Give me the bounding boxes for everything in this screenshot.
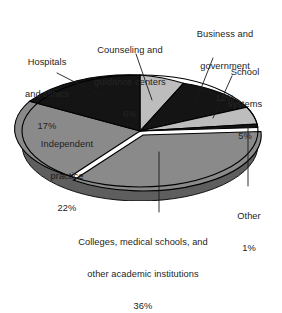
label-colleges-line1: Colleges, medical schools, and (52, 237, 234, 248)
label-business-line1: Business and (178, 29, 272, 40)
label-independent-practice: Independent practice 22% (24, 118, 110, 235)
label-independent-practice-line2: practice (24, 171, 110, 182)
label-colleges-percent: 36% (52, 301, 234, 312)
label-counseling-line1: Counseling and (76, 45, 184, 56)
label-independent-practice-percent: 22% (24, 203, 110, 214)
label-school-systems-line2: systems (212, 99, 278, 110)
label-counseling-line2: guidance centers (76, 77, 184, 88)
label-independent-practice-line1: Independent (24, 139, 110, 150)
label-school-systems-percent: 5% (212, 131, 278, 142)
label-school-systems: School systems 5% (212, 46, 278, 163)
label-school-systems-line1: School (212, 67, 278, 78)
label-colleges-line2: other academic institutions (52, 269, 234, 280)
